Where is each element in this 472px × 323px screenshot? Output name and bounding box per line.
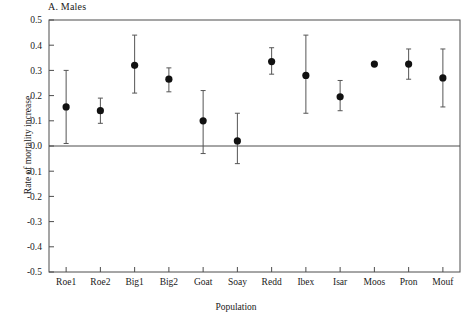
figure-panel-a-males: A. Males Rate of mortality increase Popu… bbox=[0, 0, 472, 323]
data-point-big2 bbox=[165, 76, 172, 83]
x-tick-label-pron: Pron bbox=[400, 277, 418, 287]
x-tick-label-moos: Moos bbox=[364, 277, 386, 287]
x-tick-label-roe1: Roe1 bbox=[56, 277, 76, 287]
y-tick-label: 0.1 bbox=[30, 116, 42, 126]
data-point-mouf bbox=[439, 74, 446, 81]
data-point-roe1 bbox=[63, 103, 70, 110]
x-tick-label-big1: Big1 bbox=[125, 277, 144, 287]
error-bars-group bbox=[64, 35, 446, 164]
data-point-ibex bbox=[302, 72, 309, 79]
y-tick-label: 0.3 bbox=[30, 66, 42, 76]
data-points-group bbox=[63, 58, 447, 145]
y-tick-label: -0.2 bbox=[27, 192, 42, 202]
x-tick-label-roe2: Roe2 bbox=[90, 277, 110, 287]
y-tick-label: 0.4 bbox=[30, 41, 42, 51]
y-tick-label: 0.5 bbox=[30, 15, 42, 25]
y-tick-label: -0.1 bbox=[27, 167, 42, 177]
data-point-moos bbox=[371, 61, 378, 68]
data-point-soay bbox=[234, 137, 241, 144]
data-point-goat bbox=[200, 117, 207, 124]
y-tick-label: 0.0 bbox=[30, 141, 42, 151]
data-point-big1 bbox=[131, 62, 138, 69]
x-tick-label-redd: Redd bbox=[262, 277, 282, 287]
scatter-plot-canvas: 0.50.40.30.20.10.0-0.1-0.2-0.3-0.4-0.5 R… bbox=[0, 0, 472, 323]
x-axis-ticks bbox=[66, 267, 443, 272]
data-point-isar bbox=[337, 93, 344, 100]
y-tick-label: -0.5 bbox=[27, 267, 42, 277]
data-point-redd bbox=[268, 58, 275, 65]
y-tick-label: -0.4 bbox=[27, 242, 42, 252]
x-axis-tick-labels: Roe1Roe2Big1Big2GoatSoayReddIbexIsarMoos… bbox=[56, 277, 454, 287]
y-tick-label: -0.3 bbox=[27, 217, 42, 227]
x-tick-label-goat: Goat bbox=[194, 277, 213, 287]
y-tick-label: 0.2 bbox=[30, 91, 42, 101]
x-tick-label-isar: Isar bbox=[333, 277, 348, 287]
x-tick-label-mouf: Mouf bbox=[432, 277, 454, 287]
data-point-pron bbox=[405, 61, 412, 68]
x-tick-label-ibex: Ibex bbox=[297, 277, 314, 287]
data-point-roe2 bbox=[97, 107, 104, 114]
x-tick-label-soay: Soay bbox=[228, 277, 247, 287]
x-tick-label-big2: Big2 bbox=[160, 277, 179, 287]
